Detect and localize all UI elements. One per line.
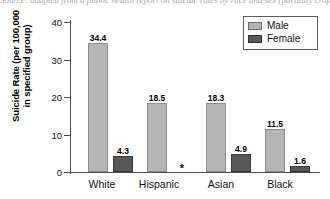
bar-asian-female[interactable] bbox=[231, 154, 251, 172]
bar-black-female[interactable] bbox=[290, 166, 310, 172]
bar-label-hispanic-female: * bbox=[166, 165, 198, 171]
x-label-hispanic: Hispanic bbox=[124, 178, 194, 190]
legend-item-male[interactable]: Male bbox=[248, 20, 313, 32]
caption-text: Source: adapted from a public health rep… bbox=[0, 0, 330, 6]
legend-swatch-male-icon bbox=[248, 22, 262, 30]
y-axis-title-line-1: Suicide Rate (per 100,000 bbox=[10, 10, 21, 122]
legend-label-male: Male bbox=[267, 20, 289, 32]
bar-label-black-male: 11.5 bbox=[259, 119, 291, 129]
bar-white-female[interactable] bbox=[113, 156, 133, 172]
bar-hispanic-male[interactable] bbox=[147, 103, 167, 172]
bar-white-male[interactable] bbox=[88, 43, 108, 172]
suicide-rate-bar-chart: Source: adapted from a public health rep… bbox=[0, 0, 330, 199]
bar-label-asian-male: 18.3 bbox=[200, 93, 232, 103]
bar-label-black-female: 1.6 bbox=[284, 156, 316, 166]
x-label-black: Black bbox=[250, 178, 310, 190]
y-tick-label-30: 30 bbox=[42, 55, 62, 66]
cropped-caption: Source: adapted from a public health rep… bbox=[0, 0, 330, 6]
bar-asian-male[interactable] bbox=[206, 103, 226, 172]
bar-label-asian-female: 4.9 bbox=[225, 144, 257, 154]
x-label-white: White bbox=[72, 178, 132, 190]
y-axis-title: Suicide Rate (per 100,000 in specified g… bbox=[10, 0, 32, 141]
y-tick-label-0: 0 bbox=[42, 167, 62, 178]
legend-label-female: Female bbox=[267, 33, 300, 45]
legend-swatch-female-icon bbox=[248, 35, 262, 43]
y-axis-title-line-2: in specified group) bbox=[21, 24, 32, 107]
y-tick-label-40: 40 bbox=[42, 17, 62, 28]
x-axis-line bbox=[70, 172, 320, 173]
y-tick-label-10: 10 bbox=[42, 130, 62, 141]
bar-label-white-male: 34.4 bbox=[82, 33, 114, 43]
x-label-asian: Asian bbox=[191, 178, 251, 190]
y-tick-0 bbox=[64, 172, 70, 173]
chart-legend: Male Female bbox=[243, 16, 318, 50]
bar-label-white-female: 4.3 bbox=[107, 146, 139, 156]
legend-item-female[interactable]: Female bbox=[248, 33, 313, 45]
bar-label-hispanic-male: 18.5 bbox=[141, 93, 173, 103]
y-tick-label-20: 20 bbox=[42, 92, 62, 103]
bar-black-male[interactable] bbox=[265, 129, 285, 172]
